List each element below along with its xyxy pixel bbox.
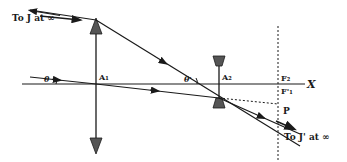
label-to-j-infinity: To J at ∞	[12, 13, 55, 23]
label-axis-x: X	[306, 78, 316, 91]
label-to-j-prime-infinity: To J' at ∞	[284, 132, 330, 142]
theta-arc	[56, 80, 57, 84]
objective-lens	[90, 18, 102, 154]
incoming-ray-theta	[30, 77, 300, 134]
label-theta-prime: θ'	[184, 74, 192, 84]
label-a2: A₂	[221, 72, 232, 82]
label-theta: θ	[44, 74, 50, 84]
label-f1-prime: F'₁	[281, 86, 293, 96]
telescope-ray-diagram: To J at ∞ θ A₁ θ' A₂ F₂ X F'₁ P To J' at…	[0, 0, 347, 162]
label-p: P	[283, 106, 290, 116]
theta-prime-arc	[196, 78, 197, 84]
label-f2: F₂	[281, 73, 291, 83]
incoming-ray-top	[30, 10, 300, 146]
label-a1: A₁	[98, 72, 109, 82]
